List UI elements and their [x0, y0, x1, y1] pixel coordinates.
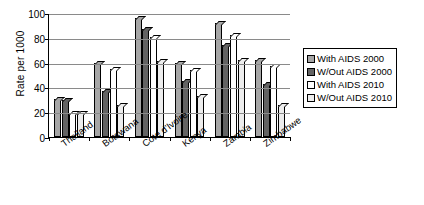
grid-line	[49, 39, 290, 40]
bar[interactable]	[215, 23, 222, 137]
bar-group	[250, 14, 290, 137]
bar[interactable]	[255, 60, 262, 137]
legend-item[interactable]: With AIDS 2000	[307, 52, 392, 65]
y-axis-tick-mark	[45, 64, 49, 65]
y-axis-tick-label: 60	[34, 58, 45, 69]
legend-item[interactable]: With AIDS 2010	[307, 78, 392, 91]
y-axis-tick-label: 80	[34, 33, 45, 44]
y-axis-tick-label: 20	[34, 108, 45, 119]
bar-group	[49, 14, 89, 137]
bar[interactable]	[94, 63, 101, 137]
legend-swatch-icon	[307, 94, 315, 102]
bar[interactable]	[110, 69, 117, 137]
x-axis-labels: ThailandBotswanaCote d'IvoireKenyaZambia…	[48, 140, 290, 202]
grid-line	[49, 14, 290, 15]
legend-swatch-icon	[307, 55, 315, 63]
y-axis-title: Rate per 1000	[15, 4, 26, 124]
legend-label: With AIDS 2000	[317, 53, 384, 64]
bar[interactable]	[222, 45, 229, 137]
bar[interactable]	[54, 99, 61, 137]
grid-line	[49, 64, 290, 65]
bar[interactable]	[263, 84, 270, 137]
y-axis-tick-mark	[45, 88, 49, 89]
legend-item[interactable]: W/Out AIDS 2010	[307, 91, 392, 104]
legend-label: With AIDS 2010	[317, 79, 384, 90]
legend-label: W/Out AIDS 2000	[317, 66, 392, 77]
legend-swatch-icon	[307, 81, 315, 89]
y-axis-tick-mark	[45, 14, 49, 15]
x-axis-tick-mark	[290, 137, 291, 141]
grid-line	[49, 113, 290, 114]
bar[interactable]	[142, 29, 149, 137]
bar[interactable]	[62, 100, 69, 137]
legend-item[interactable]: W/Out AIDS 2000	[307, 65, 392, 78]
y-axis-tick-mark	[45, 113, 49, 114]
bar-chart: Rate per 1000 020406080100 ThailandBotsw…	[0, 0, 424, 205]
y-axis-tick-label: 40	[34, 83, 45, 94]
bar-group	[210, 14, 250, 137]
y-axis-tick-label: 100	[28, 9, 45, 20]
bar-group	[89, 14, 129, 137]
legend-label: W/Out AIDS 2010	[317, 92, 392, 103]
y-axis-tick-mark	[45, 39, 49, 40]
grid-line	[49, 88, 290, 89]
legend-swatch-icon	[307, 68, 315, 76]
chart-legend: With AIDS 2000 W/Out AIDS 2000 With AIDS…	[303, 48, 397, 108]
bar[interactable]	[270, 66, 277, 137]
bar[interactable]	[230, 35, 237, 137]
bar[interactable]	[150, 37, 157, 137]
